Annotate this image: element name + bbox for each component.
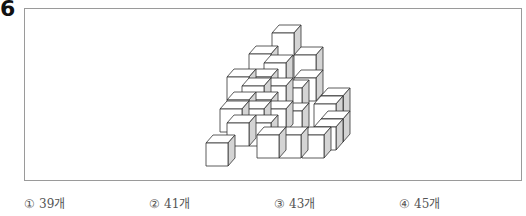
option-2[interactable]: ②41개 (149, 194, 190, 211)
cube-stack-figure (0, 0, 526, 216)
unit-cube (206, 135, 235, 166)
answer-options: ①39개 ②41개 ③43개 ④45개 (24, 194, 524, 214)
option-2-mark: ② (149, 197, 160, 211)
option-4-label: 45개 (414, 197, 440, 211)
option-3-label: 43개 (289, 197, 315, 211)
option-3[interactable]: ③43개 (274, 194, 315, 211)
option-1-mark: ① (24, 197, 35, 211)
option-1-label: 39개 (39, 197, 65, 211)
option-4-mark: ④ (399, 197, 410, 211)
option-4[interactable]: ④45개 (399, 194, 440, 211)
option-2-label: 41개 (164, 197, 190, 211)
option-3-mark: ③ (274, 197, 285, 211)
option-1[interactable]: ①39개 (24, 194, 65, 211)
unit-cube (257, 127, 286, 158)
